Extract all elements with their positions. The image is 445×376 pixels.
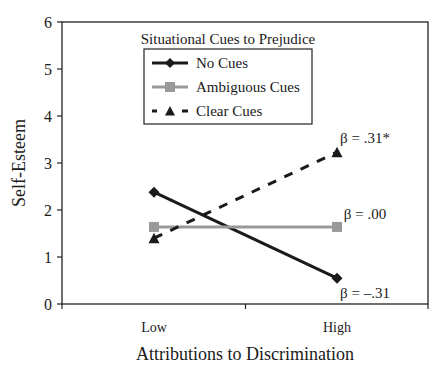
x-tick-label: Low	[141, 320, 168, 335]
square-marker	[149, 222, 159, 232]
y-tick-label: 3	[44, 155, 52, 172]
legend-label: Ambiguous Cues	[196, 79, 300, 95]
series-line	[154, 192, 337, 278]
x-axis-label: Attributions to Discrimination	[136, 344, 354, 364]
y-tick-label: 5	[44, 61, 52, 78]
series-layer: β = –.31β = .00β = .31*	[149, 130, 390, 301]
chart: 0123456 LowHigh β = –.31β = .00β = .31* …	[0, 0, 445, 376]
beta-annotation: β = .31*	[340, 130, 390, 146]
legend-label: No Cues	[196, 55, 248, 71]
square-marker	[165, 82, 175, 92]
square-marker	[332, 222, 342, 232]
y-tick-label: 4	[44, 108, 52, 125]
series-ambiguous-cues: β = .00	[149, 206, 386, 232]
y-tick-label: 6	[44, 14, 52, 31]
y-tick-label: 2	[44, 202, 52, 219]
diamond-marker	[332, 273, 343, 284]
legend: Situational Cues to PrejudiceNo CuesAmbi…	[141, 31, 316, 124]
legend-label: Clear Cues	[196, 103, 262, 119]
y-tick-label: 1	[44, 249, 52, 266]
series-no-cues: β = –.31	[149, 187, 390, 301]
x-tick-label: High	[323, 320, 351, 335]
y-axis-label: Self-Esteem	[9, 119, 29, 207]
diamond-marker	[149, 187, 160, 198]
y-axis: 0123456	[44, 14, 62, 313]
beta-annotation: β = .00	[344, 206, 386, 222]
series-line	[154, 152, 337, 238]
beta-annotation: β = –.31	[340, 285, 390, 301]
triangle-marker	[332, 147, 343, 157]
x-axis: LowHigh	[62, 304, 428, 335]
legend-title: Situational Cues to Prejudice	[141, 31, 316, 47]
y-tick-label: 0	[44, 296, 52, 313]
